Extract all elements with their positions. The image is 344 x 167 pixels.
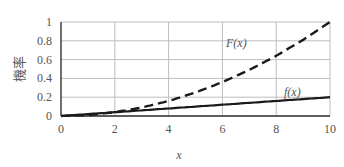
- x-tick-label: 0: [58, 122, 64, 136]
- x-tick-label: 8: [273, 122, 279, 136]
- y-tick-label: 0: [46, 109, 52, 123]
- f-annotation: f(x): [284, 85, 301, 99]
- y-tick-label: 0.6: [37, 53, 52, 67]
- probability-chart: 024681000.20.40.60.81 F(x) f(x) x 機率: [0, 0, 344, 167]
- x-tick-label: 6: [219, 122, 225, 136]
- series-fx-line: [61, 97, 330, 116]
- x-axis-label: x: [175, 148, 182, 162]
- grid: [61, 22, 330, 116]
- y-tick-label: 1: [46, 15, 52, 29]
- tick-labels: 024681000.20.40.60.81: [37, 15, 336, 136]
- x-tick-label: 10: [324, 122, 336, 136]
- series-fx-line: [61, 22, 330, 116]
- y-tick-label: 0.2: [37, 90, 52, 104]
- data-lines: [61, 22, 330, 116]
- x-tick-label: 2: [112, 122, 118, 136]
- y-axis-label: 機率: [12, 56, 27, 82]
- F-annotation: F(x): [225, 36, 247, 50]
- axes: [61, 22, 330, 116]
- y-tick-label: 0.4: [37, 71, 52, 85]
- x-tick-label: 4: [166, 122, 172, 136]
- y-tick-label: 0.8: [37, 34, 52, 48]
